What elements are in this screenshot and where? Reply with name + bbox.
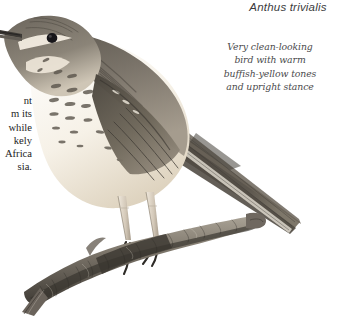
annotation-line-3: buffish-yellow tones	[209, 67, 331, 80]
bird-head	[0, 16, 101, 97]
body-text-line-3: while	[0, 121, 32, 134]
field-note-annotation: Very clean-looking bird with warm buffis…	[209, 40, 331, 94]
body-text-column: nt m its while kely Africa sia.	[0, 94, 32, 174]
body-text-line-5: Africa	[0, 147, 32, 160]
body-text-line-6: sia.	[0, 160, 32, 173]
annotation-line-4: and upright stance	[209, 80, 331, 93]
annotation-line-1: Very clean-looking	[209, 40, 331, 53]
annotation-line-2: bird with warm	[209, 53, 331, 66]
body-text-line-2: m its	[0, 107, 32, 120]
bird-tail	[174, 131, 301, 234]
body-text-line-1: nt	[0, 94, 32, 107]
bird-eye	[47, 33, 58, 43]
illustration-plate: Anthus trivialis Very clean-looking bird…	[0, 0, 342, 316]
species-title: Anthus trivialis	[236, 1, 340, 13]
body-text-line-4: kely	[0, 134, 32, 147]
